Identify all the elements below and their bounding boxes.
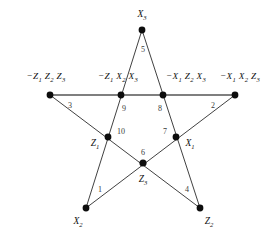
vertex-label-x2: X2: [73, 217, 82, 228]
node-number-6: 6: [141, 148, 145, 157]
edge-number-3: 3: [68, 101, 72, 110]
vertex-label-node-8-term: −X1 Z2 X3: [166, 72, 206, 83]
vertex-label-z3: Z3: [139, 175, 148, 186]
edge-top-to-bottom-right: [142, 30, 200, 208]
node-9: [118, 92, 125, 99]
node-bottom-left: [83, 205, 90, 212]
node-number-8: 8: [158, 104, 162, 113]
node-top: [139, 27, 146, 34]
vertex-label-z2: Z2: [205, 217, 214, 228]
edge-top-to-bottom-left: [86, 30, 142, 208]
vertex-label-x1: X1: [185, 139, 194, 150]
node-bottom-right: [197, 205, 204, 212]
node-10: [105, 134, 112, 141]
node-7: [173, 134, 180, 141]
node-number-7: 7: [163, 127, 167, 136]
vertex-label-node-9-term: −Z1 X2 X3: [98, 72, 138, 83]
vertex-label-left-term: −Z1 Z2 Z3: [26, 72, 65, 83]
node-number-10: 10: [117, 127, 125, 136]
pentagram-figure: X3 −Z1 Z2 Z3 −X1 X2 Z3 X2 Z2 −Z1 X2 X3 −…: [0, 0, 276, 238]
pentagram-svg: [0, 0, 276, 238]
edge-number-1: 1: [98, 185, 102, 194]
node-6: [139, 159, 146, 166]
node-number-9: 9: [122, 104, 126, 113]
vertex-label-x3: X3: [137, 10, 146, 21]
node-right: [232, 92, 239, 99]
edge-number-5: 5: [141, 45, 145, 54]
edge-number-2: 2: [211, 101, 215, 110]
node-left: [47, 92, 54, 99]
vertex-label-right-term: −X1 X2 Z3: [220, 72, 260, 83]
node-8: [160, 92, 167, 99]
vertex-label-z1: Z1: [91, 139, 100, 150]
edge-number-4: 4: [185, 185, 189, 194]
